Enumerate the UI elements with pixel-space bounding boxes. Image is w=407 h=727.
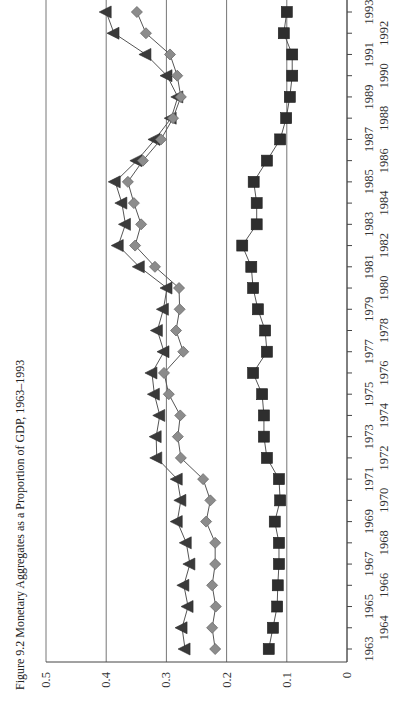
diamond-marker [210,559,221,570]
diamond-marker [172,431,183,442]
year-tick-label: 1992 [377,21,391,46]
series-diamond [122,7,221,655]
value-axis-tick-labels: 00.10.20.30.40.5 [39,671,354,687]
figure-title-text: Figure 9.2 Monetary Aggregates as a Prop… [13,360,27,690]
square-marker [260,325,271,336]
square-marker [287,70,298,81]
square-marker [273,537,284,548]
value-gridlines [46,0,347,662]
year-tick-label: 1993 [362,0,376,25]
square-marker [252,304,263,315]
figure-title: Figure 9.2 Monetary Aggregates as a Prop… [13,360,27,690]
year-tick-label: 1965 [362,594,376,619]
diamond-marker [210,601,221,612]
year-tick-label: 1984 [377,190,391,216]
diamond-marker [163,389,174,400]
value-tick-label: 0 [340,672,354,678]
square-marker [248,283,259,294]
square-marker [261,155,272,166]
triangle-marker [150,325,162,337]
year-tick-label: 1975 [362,382,376,407]
triangle-marker [177,579,189,591]
year-tick-label: 1963 [362,637,376,662]
square-marker [273,559,284,570]
axes [46,0,347,662]
diamond-marker [136,219,147,230]
triangle-marker [150,452,162,464]
triangle-marker [179,537,191,549]
triangle-marker [111,240,123,252]
year-tick-label: 1973 [362,424,376,449]
diamond-marker [172,70,183,81]
square-marker [263,644,274,655]
diamond-marker [207,622,218,633]
year-tick-label: 1981 [362,254,376,279]
data-series [99,6,298,655]
year-tick-label: 1985 [362,169,376,194]
diamond-marker [201,516,212,527]
year-tick-label: 1989 [362,84,376,109]
year-tick-label: 1990 [377,63,391,88]
square-marker [287,49,298,60]
year-tick-label: 1978 [377,318,391,343]
value-tick-label: 0.3 [159,672,173,688]
square-marker [261,452,272,463]
diamond-marker [205,495,216,506]
year-tick-label: 1979 [362,297,376,322]
square-marker [281,113,292,124]
value-tick-label: 0.4 [99,671,113,687]
diamond-marker [210,644,221,655]
square-marker [248,176,259,187]
year-tick-label: 1974 [377,402,391,428]
square-marker [275,495,286,506]
diamond-marker [207,580,218,591]
value-tick-label: 0.2 [220,672,234,688]
year-tick-label: 1988 [377,106,391,131]
year-tick-label: 1970 [377,488,391,513]
square-marker [269,516,280,527]
square-marker [272,601,283,612]
diamond-marker [168,113,179,124]
year-tick-label: 1967 [362,552,376,577]
year-tick-label: 1986 [377,148,391,173]
chart: Figure 9.2 Monetary Aggregates as a Prop… [0,0,407,727]
year-tick-label: 1980 [377,276,391,301]
year-tick-label: 1971 [362,467,376,492]
square-marker [251,198,262,209]
square-marker [278,28,289,39]
diamond-marker [131,7,142,18]
year-tick-label: 1976 [377,360,391,385]
square-marker [258,410,269,421]
year-tick-label: 1966 [377,573,391,598]
square-marker [267,622,278,633]
year-tick-label: 1977 [362,339,376,364]
year-tick-label: 1972 [377,445,391,470]
square-marker [273,474,284,485]
year-tick-label: 1964 [377,615,391,641]
diamond-marker [171,325,182,336]
square-marker [257,389,268,400]
value-tick-label: 0.5 [39,672,53,688]
diamond-marker [174,304,185,315]
triangle-marker [149,431,161,443]
year-tick-label: 1968 [377,530,391,555]
triangle-marker [175,622,187,634]
triangle-marker [139,48,151,60]
square-marker [272,580,283,591]
year-tick-label: 1969 [362,509,376,534]
square-marker [246,261,257,272]
triangle-marker [170,516,182,528]
diamond-marker [210,537,221,548]
year-tick-label: 1987 [362,127,376,152]
triangle-marker [132,261,144,273]
year-axis-tick-labels: 1963196419651966196719681969197019711972… [347,0,391,662]
triangle-marker [147,388,159,400]
square-marker [251,219,262,230]
triangle-marker [107,27,119,39]
triangle-marker [99,6,111,18]
year-tick-label: 1983 [362,212,376,237]
triangle-marker [145,367,157,379]
square-marker [261,346,272,357]
triangle-marker [108,176,120,188]
series-square [237,7,298,655]
